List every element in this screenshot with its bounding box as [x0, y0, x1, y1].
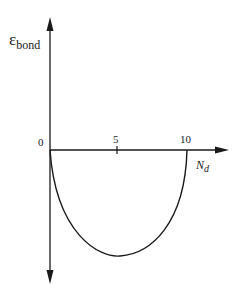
x-axis-label-subscript: d	[204, 163, 209, 174]
tick-label-5: 5	[113, 133, 119, 145]
bond-energy-diagram: εbond 0 5 10 Nd	[0, 0, 242, 293]
tick-label-10: 10	[180, 133, 191, 145]
y-axis-down-arrow-icon	[47, 270, 54, 284]
x-axis-arrow-icon	[215, 147, 229, 154]
x-axis-label: Nd	[196, 158, 209, 173]
y-axis-label-subscript: bond	[16, 38, 40, 52]
origin-label: 0	[38, 136, 44, 148]
y-axis-label: εbond	[9, 30, 40, 50]
bond-energy-curve	[50, 150, 187, 256]
y-axis-up-arrow-icon	[47, 17, 54, 31]
